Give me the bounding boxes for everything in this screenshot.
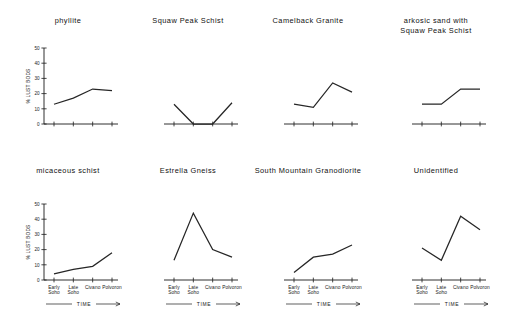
x-tick-label: Late [436,285,446,290]
panel-squaw-peak-schist: Squaw Peak Schist [128,0,248,157]
plot-area: EarlySohoLateSohoCivanoPolvoronTIME [128,156,248,313]
x-tick-label: Early [288,285,300,290]
panel-row-bottom: micaceous schist01020304050% LUST BODSEa… [0,156,509,313]
x-axis-label: TIME [445,301,460,307]
x-tick-label: Polvoron [102,285,122,290]
x-tick-label: Late [308,285,318,290]
plot-area: EarlySohoLateSohoCivanoPolvoronTIME [376,156,496,313]
data-series-line [294,83,352,107]
x-tick-label: Soho [168,290,180,295]
x-tick-label: Soho [68,290,80,295]
x-tick-label: Soho [436,290,448,295]
x-tick-label: Polvoron [342,285,362,290]
y-axis-label: % LUST BODS [26,69,31,104]
panel-row-top: phyllite01020304050% LUST BODSSquaw Peak… [0,0,509,157]
y-tick-label: 0 [37,278,40,283]
data-series-line [294,245,352,272]
y-tick-label: 20 [34,247,40,252]
x-tick-label: Late [188,285,198,290]
x-tick-label: Soho [188,290,200,295]
plot-area: 01020304050% LUST BODS [8,0,128,157]
panel-phyllite: phyllite01020304050% LUST BODS [8,0,128,157]
y-tick-label: 40 [34,61,40,66]
plot-area [248,0,368,157]
y-tick-label: 50 [34,202,40,207]
y-tick-label: 50 [34,46,40,51]
panel-unidentified: UnidentifiedEarlySohoLateSohoCivanoPolvo… [376,156,496,313]
x-tick-label: Soho [416,290,428,295]
x-tick-label: Late [68,285,78,290]
y-tick-label: 30 [34,76,40,81]
x-tick-label: Civano [325,285,341,290]
panel-micaceous-schist: micaceous schist01020304050% LUST BODSEa… [8,156,128,313]
x-tick-label: Soho [308,290,320,295]
x-tick-label: Polvoron [222,285,242,290]
data-series-line [422,89,480,104]
plot-area [376,0,496,157]
x-tick-label: Civano [85,285,101,290]
x-tick-label: Early [48,285,60,290]
x-tick-label: Polvoron [470,285,490,290]
x-axis-label: TIME [197,301,212,307]
y-tick-label: 20 [34,91,40,96]
data-series-line [174,213,232,260]
y-tick-label: 10 [34,107,40,112]
panel-camelback-granite: Camelback Granite [248,0,368,157]
x-tick-label: Early [416,285,428,290]
y-tick-label: 10 [34,263,40,268]
small-multiples-figure: phyllite01020304050% LUST BODSSquaw Peak… [0,0,509,313]
data-series-line [174,103,232,124]
plot-area [128,0,248,157]
y-axis-label: % LUST BODS [26,225,31,260]
x-tick-label: Civano [453,285,469,290]
data-series-line [54,89,112,104]
x-axis-label: TIME [317,301,332,307]
panel-south-mountain-granodiorite: South Mountain GranodioriteEarlySohoLate… [248,156,368,313]
plot-area: EarlySohoLateSohoCivanoPolvoronTIME [248,156,368,313]
plot-area: 01020304050% LUST BODSEarlySohoLateSohoC… [8,156,128,313]
x-tick-label: Civano [205,285,221,290]
y-tick-label: 0 [37,122,40,127]
x-axis-label: TIME [77,301,92,307]
x-tick-label: Soho [288,290,300,295]
panel-arkosic-sand-with-squaw-peak-schist: arkosic sand with Squaw Peak Schist [376,0,496,157]
x-tick-label: Soho [48,290,60,295]
panel-estrella-gneiss: Estrella GneissEarlySohoLateSohoCivanoPo… [128,156,248,313]
y-tick-label: 40 [34,217,40,222]
data-series-line [422,216,480,260]
data-series-line [54,253,112,274]
y-tick-label: 30 [34,232,40,237]
x-tick-label: Early [168,285,180,290]
